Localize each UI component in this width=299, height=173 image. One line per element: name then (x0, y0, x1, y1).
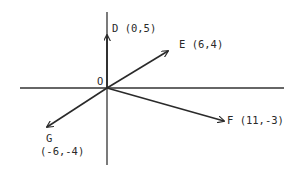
origin-label: O (97, 75, 103, 87)
vector-g-coords-label: (-6,-4) (40, 145, 84, 157)
vector-e-arrow (107, 51, 168, 88)
vector-g-name-label: G (46, 132, 52, 144)
vector-d-label: D (0,5) (112, 22, 156, 34)
vector-f-label: F (11,-3) (227, 114, 284, 126)
vector-f-arrow (107, 88, 224, 121)
vector-g-arrow (47, 88, 107, 127)
vector-e-label: E (6,4) (179, 38, 223, 50)
vector-diagram: O D (0,5) E (6,4) F (11,-3) G (-6,-4) (0, 0, 299, 173)
